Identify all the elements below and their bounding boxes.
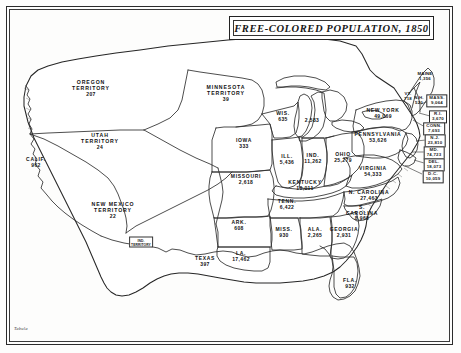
label-indian-territory-box: IND. TERRITORY bbox=[129, 237, 153, 248]
label-iowa: IOWA 333 bbox=[236, 138, 252, 149]
label-texas: TEXAS 397 bbox=[195, 256, 215, 267]
label-indiana: IND. 11,262 bbox=[304, 153, 321, 164]
label-kentucky: KENTUCKY 10,011 bbox=[288, 180, 321, 191]
callout-massachusetts: MASS. 9,064 bbox=[426, 94, 447, 107]
label-pennsylvania: PENNSYLVANIA 53,626 bbox=[355, 132, 402, 143]
label-arkansas: ARK. 608 bbox=[231, 220, 246, 231]
map-figure: FREE-COLORED POPULATION, 1850 OREGON TER… bbox=[0, 0, 461, 353]
label-south-carolina: S. CAROLINA 8,960 bbox=[346, 205, 378, 222]
label-louisiana: LA. 17,462 bbox=[232, 251, 250, 262]
label-ohio: OHIO 25,279 bbox=[334, 152, 352, 163]
label-minnesota-territory: MINNESOTA TERRITORY 39 bbox=[207, 85, 246, 102]
label-california: CALIF. 962 bbox=[26, 157, 46, 168]
label-new-york: NEW YORK 49,069 bbox=[366, 108, 399, 119]
leader-del bbox=[414, 160, 424, 163]
label-utah-territory: UTAH TERRITORY 24 bbox=[81, 133, 119, 150]
label-oregon-territory: OREGON TERRITORY 207 bbox=[72, 80, 110, 97]
label-georgia: GEORGIA 2,931 bbox=[330, 227, 359, 238]
label-illinois: ILL. 5,436 bbox=[280, 154, 295, 165]
leader-dc bbox=[405, 166, 422, 174]
title-cartouche: FREE-COLORED POPULATION, 1850 bbox=[229, 16, 434, 40]
label-mississippi: MISS. 930 bbox=[275, 227, 292, 238]
label-tennessee: TENN. 6,422 bbox=[278, 199, 297, 210]
label-new-hampshire: N.H. 520 bbox=[414, 96, 423, 106]
callout-district-of-columbia: D.C. 10,059 bbox=[423, 170, 444, 183]
label-florida: FLA. 932 bbox=[343, 278, 357, 289]
map-credit: Tabula bbox=[14, 326, 28, 331]
label-new-mexico-territory: NEW MEXICO TERRITORY 22 bbox=[91, 202, 134, 219]
label-missouri: MISSOURI 2,618 bbox=[231, 174, 261, 185]
page-title: FREE-COLORED POPULATION, 1850 bbox=[234, 23, 428, 34]
label-wisconsin: WIS. 635 bbox=[276, 111, 290, 122]
label-north-carolina: N. CAROLINA 27,463 bbox=[349, 190, 389, 201]
label-maine: MAINE 1,356 bbox=[418, 72, 433, 82]
label-vermont: VT. 718 bbox=[404, 92, 412, 102]
label-alabama: ALA. 2,265 bbox=[308, 227, 323, 238]
label-virginia: VIRGINIA 54,333 bbox=[359, 166, 387, 177]
label-michigan: 2,583 bbox=[305, 118, 320, 124]
